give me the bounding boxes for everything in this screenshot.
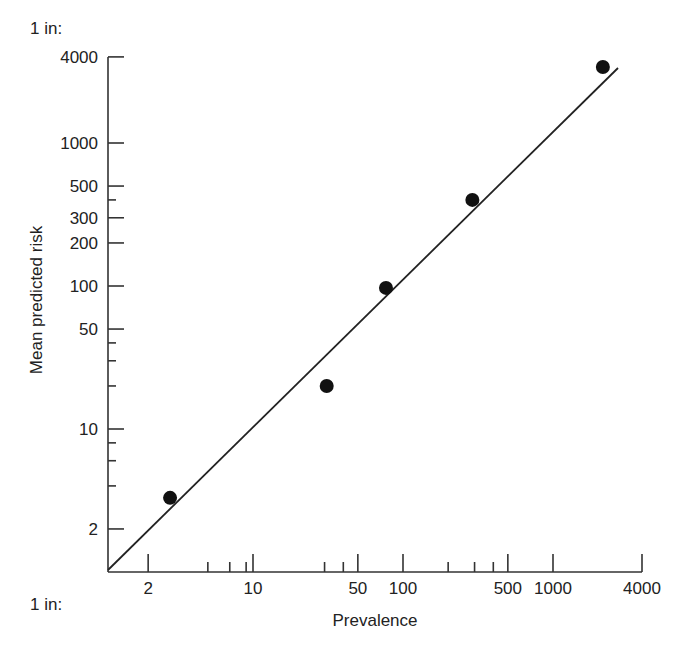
data-point [596, 60, 610, 74]
x-tick-label: 100 [389, 579, 417, 598]
y-tick-label: 500 [70, 177, 98, 196]
data-points [163, 60, 610, 505]
y-tick-label: 200 [70, 234, 98, 253]
data-point [163, 491, 177, 505]
data-point [379, 281, 393, 295]
y-tick-labels: 2105010020030050010004000 [60, 48, 98, 539]
x-tick-label: 500 [494, 579, 522, 598]
y-tick-label: 300 [70, 209, 98, 228]
y-tick-label: 2 [89, 520, 98, 539]
x-tick-label: 50 [348, 579, 367, 598]
axes [108, 57, 642, 572]
x-ticks [148, 554, 642, 572]
y-tick-label: 10 [79, 420, 98, 439]
data-point [465, 193, 479, 207]
x-tick-label: 2 [143, 579, 152, 598]
y-axis-title: Mean predicted risk [27, 225, 46, 374]
y-tick-label: 100 [70, 277, 98, 296]
x-axis-title: Prevalence [332, 611, 417, 630]
y-ticks [108, 57, 124, 529]
x-tick-label: 4000 [623, 579, 661, 598]
data-point [320, 379, 334, 393]
identity-line [108, 68, 618, 570]
x-tick-label: 1000 [534, 579, 572, 598]
x-tick-label: 10 [244, 579, 263, 598]
x-unit-prefix: 1 in: [30, 595, 62, 614]
y-tick-label: 4000 [60, 48, 98, 67]
scatter-chart: 2105010020030050010004000 21050100500100… [0, 0, 675, 646]
y-tick-label: 1000 [60, 134, 98, 153]
y-unit-prefix: 1 in: [30, 19, 62, 38]
x-tick-labels: 2105010050010004000 [143, 579, 660, 598]
y-tick-label: 50 [79, 320, 98, 339]
